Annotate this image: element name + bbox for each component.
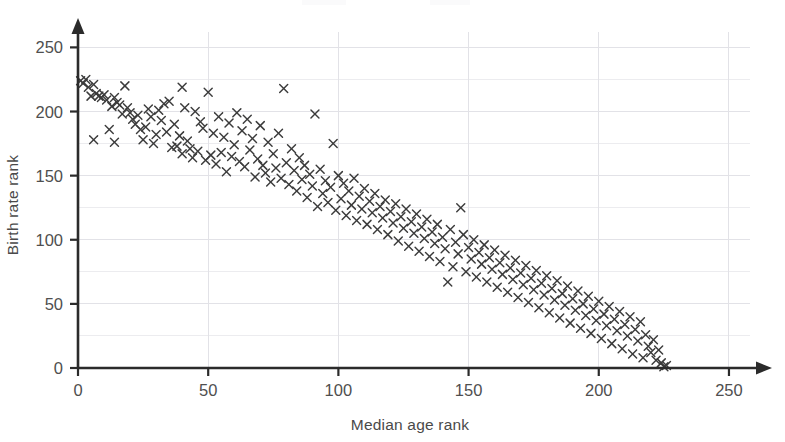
y-axis-title: Birth rate rank bbox=[4, 155, 21, 255]
chart-background bbox=[0, 0, 785, 442]
y-tick-label: 100 bbox=[35, 231, 63, 249]
y-tick-label: 50 bbox=[45, 295, 63, 313]
x-tick-label: 200 bbox=[585, 381, 613, 399]
chart-svg: 050100150200250 050100150200250 Median a… bbox=[0, 0, 785, 442]
x-tick-label: 150 bbox=[455, 381, 483, 399]
scatter-chart-figure: 050100150200250 050100150200250 Median a… bbox=[0, 0, 785, 442]
x-tick-label: 250 bbox=[715, 381, 743, 399]
y-tick-label: 250 bbox=[35, 38, 63, 56]
y-tick-label: 200 bbox=[35, 103, 63, 121]
y-tick-label: 0 bbox=[54, 359, 63, 377]
x-tick-label: 100 bbox=[325, 381, 353, 399]
x-tick-label: 50 bbox=[199, 381, 217, 399]
x-axis-title: Median age rank bbox=[351, 416, 470, 433]
y-tick-label: 150 bbox=[35, 167, 63, 185]
x-tick-label: 0 bbox=[73, 381, 82, 399]
